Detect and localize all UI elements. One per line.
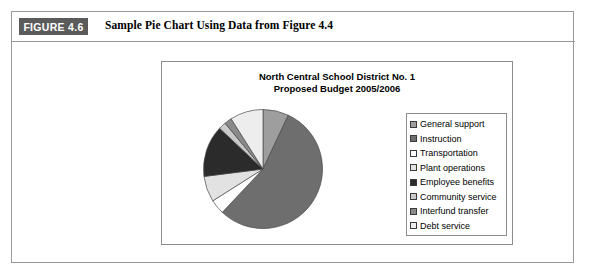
legend-label: Community service [420, 192, 497, 202]
figure-frame: FIGURE 4.6 Sample Pie Chart Using Data f… [11, 11, 574, 263]
legend-swatch-icon [410, 121, 417, 128]
legend-label: Employee benefits [420, 177, 494, 187]
pie-chart [202, 108, 324, 230]
legend-label: Debt service [420, 221, 470, 231]
pie-chart-svg [202, 108, 324, 230]
legend-swatch-icon [410, 150, 417, 157]
legend-swatch-icon [410, 222, 417, 229]
legend-label: General support [420, 119, 485, 129]
legend-item: Transportation [410, 146, 506, 161]
legend-label: Plant operations [420, 163, 485, 173]
legend-label: Instruction [420, 134, 462, 144]
chart-title-block: North Central School District No. 1 Prop… [162, 71, 512, 95]
chart-legend: General supportInstructionTransportation… [406, 113, 507, 236]
figure-header: FIGURE 4.6 Sample Pie Chart Using Data f… [12, 12, 575, 42]
legend-label: Interfund transfer [420, 206, 489, 216]
pie-slice-group [204, 110, 323, 229]
legend-item: Plant operations [410, 161, 506, 176]
legend-item: Instruction [410, 132, 506, 147]
figure-caption: Sample Pie Chart Using Data from Figure … [105, 19, 333, 31]
legend-swatch-icon [410, 164, 417, 171]
legend-swatch-icon [410, 193, 417, 200]
legend-swatch-icon [410, 179, 417, 186]
legend-item: Employee benefits [410, 175, 506, 190]
legend-item: Interfund transfer [410, 204, 506, 219]
legend-label: Transportation [420, 148, 478, 158]
chart-title: North Central School District No. 1 [162, 71, 512, 83]
figure-number-badge: FIGURE 4.6 [19, 18, 88, 35]
legend-item: Debt service [410, 219, 506, 234]
legend-swatch-icon [410, 135, 417, 142]
legend-swatch-icon [410, 208, 417, 215]
legend-item: General support [410, 117, 506, 132]
legend-item: Community service [410, 190, 506, 205]
chart-subtitle: Proposed Budget 2005/2006 [162, 83, 512, 95]
chart-panel: North Central School District No. 1 Prop… [161, 61, 513, 245]
